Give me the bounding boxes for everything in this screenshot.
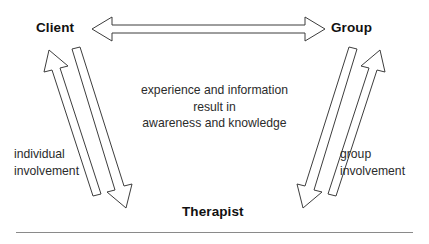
center-caption-line-1: experience and information <box>0 82 429 99</box>
diagram-canvas: Client Group Therapist experience and in… <box>0 0 429 244</box>
side-label-individual-involvement: individual involvement <box>14 146 79 180</box>
node-label-therapist: Therapist <box>182 205 244 219</box>
node-label-client: Client <box>36 21 74 35</box>
side-label-individual-line-1: individual <box>14 146 79 163</box>
node-label-group: Group <box>331 21 372 35</box>
side-label-individual-line-2: involvement <box>14 163 79 180</box>
center-caption: experience and information result in awa… <box>0 82 429 132</box>
arrow-client-group-bidirectional <box>92 17 325 41</box>
center-caption-line-2: result in <box>0 99 429 116</box>
side-label-group-involvement: group involvement <box>340 146 405 180</box>
center-caption-line-3: awareness and knowledge <box>0 115 429 132</box>
side-label-group-line-1: group <box>340 146 405 163</box>
side-label-group-line-2: involvement <box>340 163 405 180</box>
